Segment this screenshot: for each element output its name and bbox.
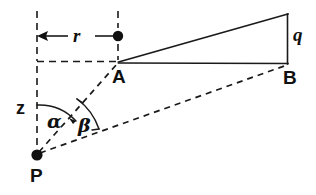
angle-arc-beta-start-tick [77,99,83,103]
label-point-p: P [30,166,43,185]
label-z-axis: z [16,99,25,117]
segment-a-to-apex [119,14,289,62]
label-q: q [293,25,303,44]
label-point-a: A [112,67,126,86]
r-endpoint-dot [113,31,123,41]
segment-a-to-b [119,63,289,64]
figure-canvas [0,0,316,195]
angle-arc-beta-end-tick [92,129,99,130]
dashed-segment-p-to-a [39,64,117,152]
point-p-dot [31,149,42,160]
label-angle-beta: β [78,116,91,135]
label-point-b: B [283,68,297,87]
label-r: r [73,26,80,45]
label-angle-alpha: α [47,112,62,131]
geometry-figure: r A B q z α β P [0,0,316,195]
